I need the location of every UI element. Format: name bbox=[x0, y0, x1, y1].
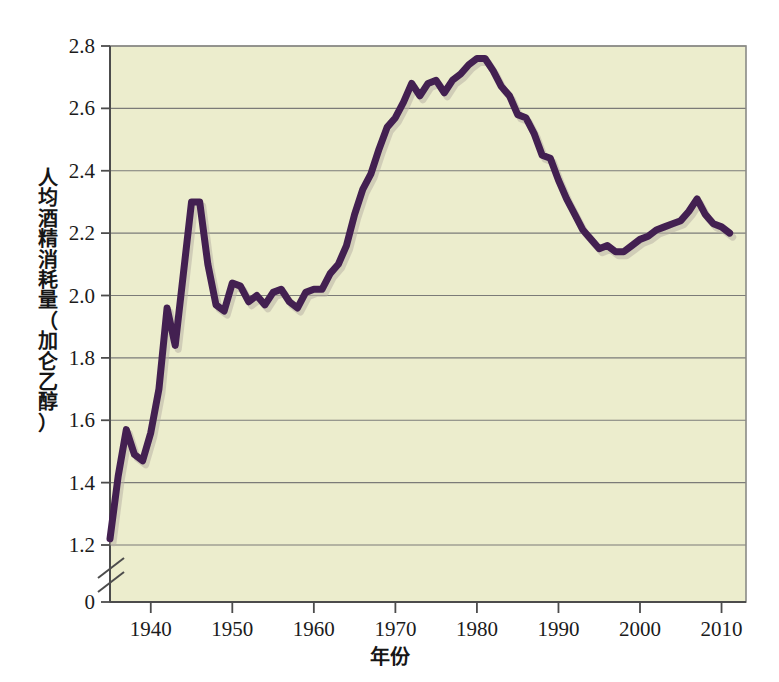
y-tick-label: 1.2 bbox=[69, 533, 95, 557]
x-tick-label: 2000 bbox=[619, 617, 661, 641]
y-axis-title: 人 均 酒 精 消 耗 量 （ 加 仑 乙 醇 ） bbox=[33, 168, 63, 433]
plot-area-background bbox=[110, 46, 746, 602]
chart-figure: 01.21.41.61.82.02.22.42.62.8 19401950196… bbox=[0, 0, 779, 682]
x-tick-label: 1960 bbox=[293, 617, 335, 641]
x-axis-ticks: 19401950196019701980199020002010 bbox=[130, 602, 743, 641]
line-chart: 01.21.41.61.82.02.22.42.62.8 19401950196… bbox=[0, 0, 779, 682]
x-tick-label: 1990 bbox=[537, 617, 579, 641]
y-tick-label: 1.8 bbox=[69, 346, 95, 370]
y-axis-ticks: 01.21.41.61.82.02.22.42.62.8 bbox=[69, 34, 110, 614]
x-tick-label: 2010 bbox=[701, 617, 743, 641]
y-tick-label: 2.6 bbox=[69, 96, 95, 120]
x-tick-label: 1950 bbox=[211, 617, 253, 641]
y-tick-label: 0 bbox=[85, 590, 96, 614]
x-tick-label: 1970 bbox=[374, 617, 416, 641]
y-tick-label: 2.4 bbox=[69, 159, 96, 183]
x-tick-label: 1980 bbox=[456, 617, 498, 641]
x-tick-label: 1940 bbox=[130, 617, 172, 641]
y-tick-label: 2.2 bbox=[69, 221, 95, 245]
y-tick-label: 1.4 bbox=[69, 471, 96, 495]
y-tick-label: 2.8 bbox=[69, 34, 95, 58]
y-tick-label: 2.0 bbox=[69, 284, 95, 308]
x-axis-title: 年份 bbox=[0, 641, 779, 670]
y-tick-label: 1.6 bbox=[69, 408, 95, 432]
